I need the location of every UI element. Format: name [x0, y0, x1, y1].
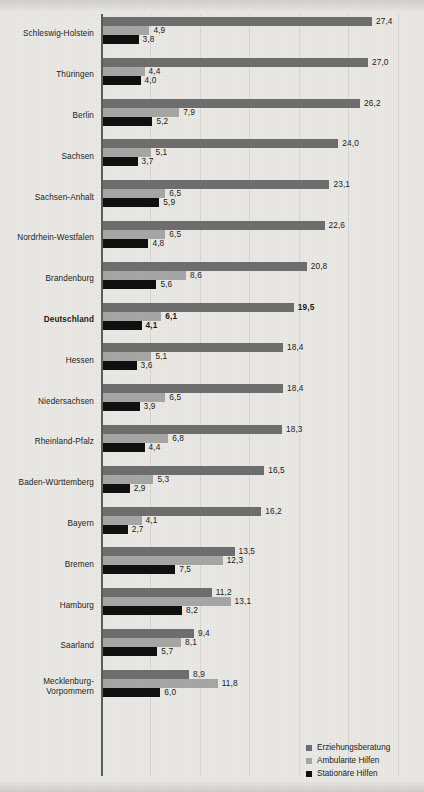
bar-3[interactable] [101, 484, 130, 493]
bar-track: 2,7 [101, 525, 424, 534]
category-label: Berlin [0, 96, 94, 137]
bar-value-label: 27,4 [376, 16, 393, 26]
bar-3[interactable] [101, 321, 142, 330]
bar-group: 22,66,54,8 [101, 221, 424, 248]
bar-value-label: 2,9 [134, 483, 146, 493]
bar-track: 5,9 [101, 198, 424, 207]
bar-1[interactable] [101, 262, 307, 271]
bar-1[interactable] [101, 221, 325, 230]
bar-1[interactable] [101, 466, 264, 475]
bar-1[interactable] [101, 99, 360, 108]
bar-1[interactable] [101, 588, 212, 597]
bar-1[interactable] [101, 507, 261, 516]
bar-track: 3,6 [101, 361, 424, 370]
bar-group: 24,05,13,7 [101, 139, 424, 166]
bar-3[interactable] [101, 198, 159, 207]
bar-3[interactable] [101, 443, 145, 452]
bar-group: 8,911,86,0 [101, 670, 424, 697]
bar-2[interactable] [101, 271, 186, 280]
bar-track: 7,9 [101, 108, 424, 117]
bar-track: 24,0 [101, 139, 424, 148]
bar-track: 9,4 [101, 629, 424, 638]
legend-item[interactable]: Erziehungsberatung [306, 742, 390, 753]
bar-2[interactable] [101, 393, 165, 402]
bar-group-row: Mecklenburg-Vorpommern8,911,86,0 [0, 667, 424, 708]
bar-value-label: 5,1 [155, 351, 167, 361]
bar-1[interactable] [101, 547, 235, 556]
bar-value-label: 4,4 [149, 442, 161, 452]
category-label: Saarland [0, 626, 94, 667]
bar-3[interactable] [101, 647, 157, 656]
bar-3[interactable] [101, 157, 138, 166]
bar-track: 27,4 [101, 17, 424, 26]
bar-group-row: Sachsen-Anhalt23,16,55,9 [0, 177, 424, 218]
bar-3[interactable] [101, 565, 175, 574]
bar-group: 16,55,32,9 [101, 466, 424, 493]
bar-1[interactable] [101, 384, 283, 393]
bar-2[interactable] [101, 189, 165, 198]
legend-swatch-icon [306, 771, 312, 777]
bar-group: 18,46,53,9 [101, 384, 424, 411]
bar-track: 20,8 [101, 262, 424, 271]
bar-value-label: 5,3 [157, 474, 169, 484]
bar-3[interactable] [101, 280, 156, 289]
bar-3[interactable] [101, 525, 128, 534]
bar-2[interactable] [101, 67, 145, 76]
bar-1[interactable] [101, 425, 282, 434]
bar-track: 19,5 [101, 303, 424, 312]
legend-item[interactable]: Ambulante Hilfen [306, 755, 390, 766]
bar-1[interactable] [101, 303, 294, 312]
bar-2[interactable] [101, 556, 223, 565]
bar-3[interactable] [101, 117, 152, 126]
bar-group-row: Saarland9,48,15,7 [0, 626, 424, 667]
bar-1[interactable] [101, 343, 283, 352]
bar-3[interactable] [101, 688, 160, 697]
bar-value-label: 16,5 [268, 465, 285, 475]
bar-group-row: Sachsen24,05,13,7 [0, 136, 424, 177]
bar-3[interactable] [101, 361, 137, 370]
bar-1[interactable] [101, 58, 368, 67]
bar-value-label: 23,1 [333, 179, 350, 189]
legend-label: Stationäre Hilfen [317, 769, 378, 779]
bar-track: 4,1 [101, 516, 424, 525]
bar-1[interactable] [101, 139, 338, 148]
category-label: Rheinland-Pfalz [0, 422, 94, 463]
bar-3[interactable] [101, 239, 148, 248]
bar-group: 9,48,15,7 [101, 629, 424, 656]
bar-1[interactable] [101, 670, 189, 679]
bar-2[interactable] [101, 679, 218, 688]
bar-value-label: 5,2 [156, 116, 168, 126]
bar-3[interactable] [101, 35, 139, 44]
value-axis-line [101, 14, 103, 776]
bar-group-row: Schleswig-Holstein27,44,93,8 [0, 14, 424, 55]
bar-2[interactable] [101, 597, 231, 606]
bar-track: 26,2 [101, 99, 424, 108]
legend-item[interactable]: Stationäre Hilfen [306, 768, 390, 779]
bar-value-label: 11,8 [222, 678, 238, 688]
bar-1[interactable] [101, 17, 372, 26]
legend-swatch-icon [306, 758, 312, 764]
bar-1[interactable] [101, 180, 329, 189]
bar-3[interactable] [101, 76, 141, 85]
bar-value-label: 6,0 [164, 687, 176, 697]
bar-track: 5,2 [101, 117, 424, 126]
bar-1[interactable] [101, 629, 194, 638]
category-label: Deutschland [0, 300, 94, 341]
bar-group: 18,45,13,6 [101, 343, 424, 370]
bar-track: 12,3 [101, 556, 424, 565]
bar-value-label: 4,8 [152, 238, 164, 248]
bar-group: 27,04,44,0 [101, 58, 424, 85]
bar-value-label: 6,5 [169, 229, 181, 239]
bar-group: 19,56,14,1 [101, 303, 424, 330]
bar-track: 11,8 [101, 679, 424, 688]
bar-value-label: 12,3 [227, 555, 244, 565]
bar-group: 18,36,84,4 [101, 425, 424, 452]
bar-group-row: Nordrhein-Westfalen22,66,54,8 [0, 218, 424, 259]
bar-3[interactable] [101, 606, 182, 615]
bar-value-label: 3,6 [141, 360, 153, 370]
bar-track: 6,0 [101, 688, 424, 697]
category-label: Hamburg [0, 585, 94, 626]
category-label: Sachsen [0, 136, 94, 177]
bar-3[interactable] [101, 402, 140, 411]
bar-value-label: 22,6 [329, 220, 346, 230]
